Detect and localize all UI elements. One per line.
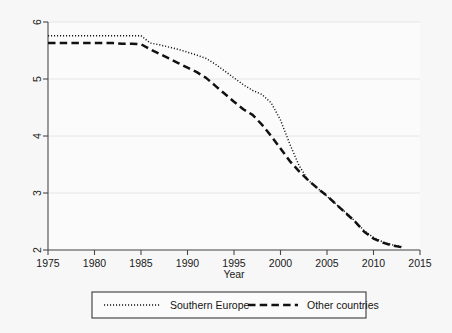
x-tick-label: 2015: [408, 257, 432, 269]
x-tick-label: 2010: [362, 257, 386, 269]
x-tick-label: 2000: [269, 257, 293, 269]
y-tick-label: 3: [31, 190, 43, 196]
x-tick-label: 1985: [129, 257, 153, 269]
x-tick-label: 1990: [176, 257, 200, 269]
y-axis-tick-labels: 23456: [31, 19, 43, 253]
legend-label-southern-europe: Southern Europe: [170, 299, 250, 311]
x-tick-label: 1975: [36, 257, 60, 269]
y-tick-label: 4: [31, 133, 43, 139]
chart-figure: 23456 1975198019851990199520002005201020…: [0, 0, 452, 333]
chart-legend: Southern Europe Other countries: [92, 292, 379, 318]
legend-label-other-countries: Other countries: [307, 299, 379, 311]
y-tick-label: 5: [31, 76, 43, 82]
x-tick-label: 2005: [315, 257, 339, 269]
y-tick-label: 2: [31, 247, 43, 253]
line-chart: 23456 1975198019851990199520002005201020…: [0, 0, 452, 333]
x-tick-label: 1980: [83, 257, 107, 269]
y-tick-label: 6: [31, 19, 43, 25]
x-axis-ticks: [48, 250, 420, 255]
y-axis-ticks: [43, 22, 48, 250]
x-axis-title: Year: [223, 268, 245, 280]
